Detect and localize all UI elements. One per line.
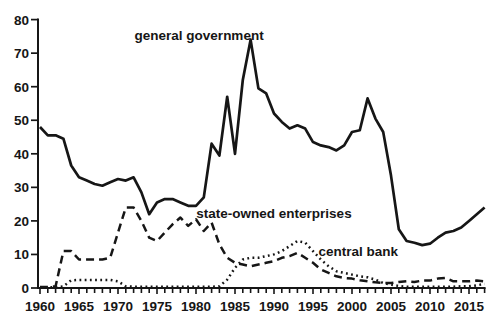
x-tick-label: 1980 bbox=[181, 299, 211, 314]
x-tick-label: 1985 bbox=[220, 299, 251, 314]
y-tick-label: 40 bbox=[14, 147, 29, 162]
x-tick-label: 1995 bbox=[298, 299, 329, 314]
x-tick-label: 2000 bbox=[337, 299, 367, 314]
y-tick-label: 50 bbox=[14, 113, 29, 128]
x-tick-label: 1965 bbox=[64, 299, 95, 314]
x-tick-label: 2005 bbox=[376, 299, 407, 314]
x-tick-label: 1960 bbox=[25, 299, 55, 314]
y-tick-label: 70 bbox=[14, 46, 29, 61]
x-tick-label: 2010 bbox=[415, 299, 445, 314]
y-tick-label: 20 bbox=[14, 214, 29, 229]
y-tick-label: 60 bbox=[14, 80, 29, 95]
x-tick-label: 1975 bbox=[142, 299, 173, 314]
chart-canvas: 0102030405060708019601965197019751980198… bbox=[0, 0, 488, 328]
series-label-general-government: general government bbox=[135, 28, 265, 43]
y-tick-label: 80 bbox=[14, 13, 29, 28]
y-tick-label: 10 bbox=[14, 247, 29, 262]
x-tick-label: 1970 bbox=[103, 299, 133, 314]
x-tick-label: 2015 bbox=[454, 299, 485, 314]
line-chart: 0102030405060708019601965197019751980198… bbox=[0, 0, 488, 328]
series-label-central-bank: central bank bbox=[318, 244, 398, 259]
y-tick-label: 0 bbox=[21, 281, 29, 296]
x-tick-label: 1990 bbox=[259, 299, 289, 314]
series-label-state-owned-enterprises: state-owned enterprises bbox=[196, 206, 351, 221]
y-tick-label: 30 bbox=[14, 180, 29, 195]
